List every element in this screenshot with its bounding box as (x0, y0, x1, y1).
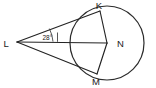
segment-kn-radius (100, 11, 107, 43)
vertex-label-n: N (117, 38, 124, 49)
segment-ln-center-line (17, 42, 107, 43)
vertex-label-k: K (96, 0, 103, 11)
geometry-diagram: 28° L K N M (0, 0, 156, 88)
segment-mn-radius (97, 43, 107, 74)
segment-lm-tangent (17, 42, 97, 74)
vertex-label-l: L (4, 38, 9, 49)
segment-lk-tangent (17, 11, 100, 42)
vertex-label-m: M (92, 76, 100, 87)
geometry-canvas: 28° L K N M (0, 0, 156, 88)
angle-label-28: 28° (43, 34, 53, 41)
